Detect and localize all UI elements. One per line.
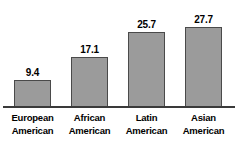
x-tick-label-african-american: African American bbox=[59, 112, 120, 137]
x-tick-label-line: European bbox=[2, 112, 63, 125]
bar-group-latin-american: 25.7 bbox=[128, 0, 165, 107]
bar-value-label: 27.7 bbox=[177, 14, 230, 25]
x-axis-line bbox=[3, 106, 235, 108]
bar-value-label: 9.4 bbox=[6, 67, 59, 78]
bar-group-african-american: 17.1 bbox=[71, 0, 108, 107]
x-tick-label-line: American bbox=[2, 125, 63, 138]
bar-chart: 9.4 17.1 25.7 27.7 European American Afr… bbox=[0, 0, 238, 145]
bar-asian-american[interactable] bbox=[185, 27, 222, 107]
bar-latin-american[interactable] bbox=[128, 32, 165, 107]
x-tick-label-asian-american: Asian American bbox=[173, 112, 234, 137]
x-tick-label-line: Asian bbox=[173, 112, 234, 125]
x-tick-label-line: African bbox=[59, 112, 120, 125]
x-tick-label-line: American bbox=[59, 125, 120, 138]
bar-african-american[interactable] bbox=[71, 57, 108, 107]
x-tick-label-european-american: European American bbox=[2, 112, 63, 137]
x-tick-label-line: Latin bbox=[116, 112, 177, 125]
bar-group-european-american: 9.4 bbox=[14, 0, 51, 107]
x-tick-label-line: American bbox=[116, 125, 177, 138]
bar-group-asian-american: 27.7 bbox=[185, 0, 222, 107]
bar-european-american[interactable] bbox=[14, 80, 51, 107]
plot-area: 9.4 17.1 25.7 27.7 bbox=[0, 0, 238, 107]
x-tick-label-latin-american: Latin American bbox=[116, 112, 177, 137]
bar-value-label: 25.7 bbox=[120, 19, 173, 30]
x-tick-label-line: American bbox=[173, 125, 234, 138]
x-axis-tick-labels: European American African American Latin… bbox=[0, 112, 238, 145]
bar-value-label: 17.1 bbox=[63, 44, 116, 55]
